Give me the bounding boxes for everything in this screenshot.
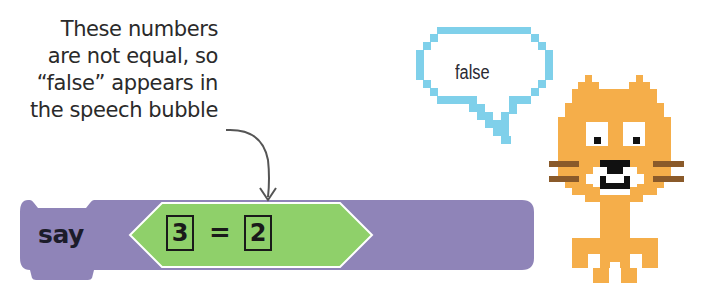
right-value-input[interactable]: 2 bbox=[244, 215, 272, 251]
cat-pupil-right bbox=[633, 137, 640, 144]
cat-pupil-left bbox=[594, 137, 601, 144]
equals-symbol: = bbox=[209, 217, 231, 247]
left-value-input[interactable]: 3 bbox=[166, 215, 194, 251]
speech-bubble-text: false bbox=[455, 61, 490, 84]
speech-bubble bbox=[416, 27, 553, 144]
annotation-arrow bbox=[226, 130, 276, 200]
say-block-label: say bbox=[38, 220, 84, 249]
graphics-layer bbox=[0, 0, 708, 296]
cat-sprite[interactable] bbox=[549, 75, 684, 283]
